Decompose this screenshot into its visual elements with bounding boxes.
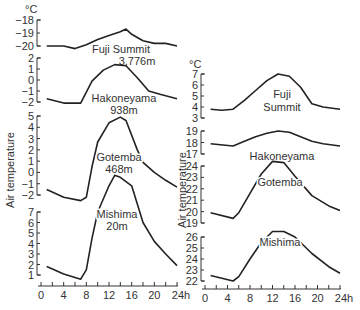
station-label: 20m: [106, 220, 127, 232]
station-label: Hakoneyama: [250, 150, 316, 162]
summer-chart: 76543FujiSummit191817Hakoneyama242322212…: [186, 58, 353, 304]
chart-figure: −18−19−20Fuji Summit3,776m210−1−2Hakoney…: [0, 0, 360, 310]
x-tick-label: 24h: [172, 289, 190, 301]
station-label: Fuji: [273, 88, 291, 100]
x-tick-label: 0: [38, 289, 44, 301]
y-tick-label: 19: [186, 125, 198, 137]
panel-fuji-summit: −18−19−20Fuji Summit3,776m: [15, 14, 177, 67]
y-tick-label: −2: [21, 96, 34, 108]
x-tick-label: 12: [103, 289, 115, 301]
y-tick-label: 3: [28, 133, 34, 145]
y-tick-label: 18: [186, 137, 198, 149]
y-tick-label: 0: [28, 166, 34, 178]
panel-fuji-summit: 76543FujiSummit: [192, 68, 340, 124]
x-tick-label: 12: [266, 292, 278, 304]
station-label: Mishima: [97, 208, 139, 220]
station-label: Hakoneyama: [92, 92, 158, 104]
x-tick-label: 20: [148, 289, 160, 301]
x-axis: 04812162024h: [202, 285, 353, 304]
y-tick-label: 5: [28, 110, 34, 122]
unit-label: °C: [189, 58, 201, 70]
panel-hakoneyama: 191817Hakoneyama: [186, 125, 340, 162]
x-tick-label: 24h: [335, 292, 353, 304]
y-tick-label: −18: [15, 14, 34, 26]
y-tick-label: 1: [28, 269, 34, 281]
y-axis-title: Air temperature: [4, 132, 16, 208]
x-tick-label: 20: [311, 292, 323, 304]
panel-gotemba: 543210−1−2Gotemba468m: [21, 110, 177, 201]
station-label: Gotemba: [96, 151, 142, 163]
x-tick-label: 8: [247, 292, 253, 304]
panel-mishima: 2625242322Mishima: [186, 231, 340, 287]
x-axis: 04812162024h: [38, 282, 190, 301]
y-axis-title: Air temperature: [176, 152, 188, 228]
station-label: Fuji Summit: [92, 43, 150, 55]
station-label: 938m: [110, 104, 138, 116]
x-tick-label: 0: [202, 292, 208, 304]
y-tick-label: 3: [192, 112, 198, 124]
x-tick-label: 16: [289, 292, 301, 304]
y-tick-label: −20: [15, 40, 34, 52]
y-tick-label: −2: [21, 189, 34, 201]
y-tick-label: 4: [28, 121, 34, 133]
y-tick-label: 1: [28, 155, 34, 167]
x-tick-label: 8: [83, 289, 89, 301]
temperature-curve: [211, 131, 340, 146]
winter-chart: −18−19−20Fuji Summit3,776m210−1−2Hakoney…: [15, 3, 190, 301]
x-tick-label: 16: [126, 289, 138, 301]
station-label: Summit: [263, 101, 300, 113]
y-tick-label: 22: [186, 275, 198, 287]
station-label: Mishima: [260, 236, 302, 248]
station-label: 468m: [105, 163, 133, 175]
x-tick-label: 4: [61, 289, 67, 301]
station-label: Gotemba: [257, 176, 303, 188]
y-tick-label: 2: [28, 144, 34, 156]
y-tick-label: −19: [15, 27, 34, 39]
y-tick-label: −1: [21, 178, 34, 190]
x-tick-label: 4: [224, 292, 230, 304]
unit-label: °C: [25, 3, 37, 15]
temperature-curve: [211, 161, 340, 218]
panel-gotemba: 242322212019Gotemba: [186, 160, 340, 229]
